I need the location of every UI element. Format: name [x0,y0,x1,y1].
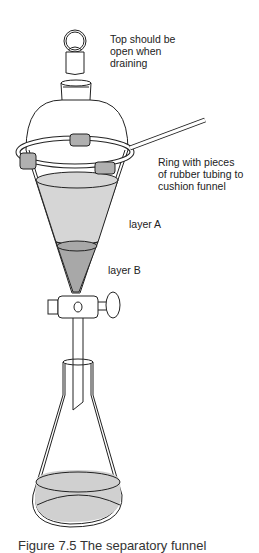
ring-label: Ring with pieces of rubber tubing to cus… [158,156,243,192]
stopper [64,30,86,75]
funnel-stem [73,318,83,410]
stopper-label: Top should be open when draining [110,33,175,69]
figure-caption: Figure 7.5 The separatory funnel [18,538,206,553]
funnel-neck [61,80,91,100]
stopcock [48,292,120,318]
layer-b-label: layer B [108,264,141,276]
erlenmeyer-flask [32,359,122,527]
layer-a-label: layer A [129,218,161,230]
